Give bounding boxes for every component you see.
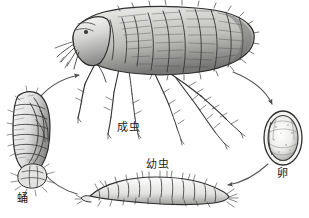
pupa-cocoon-debris — [18, 164, 47, 188]
stage-label-egg: 卵 — [277, 168, 289, 179]
stage-label-adult: 成虫 — [117, 122, 140, 133]
egg-illustration — [264, 111, 302, 165]
stage-label-larva: 幼虫 — [146, 159, 169, 170]
flea-life-cycle-figure — [0, 0, 309, 218]
life-cycle-illustration — [0, 0, 309, 218]
stage-label-pupa: 蛹 — [17, 193, 29, 204]
